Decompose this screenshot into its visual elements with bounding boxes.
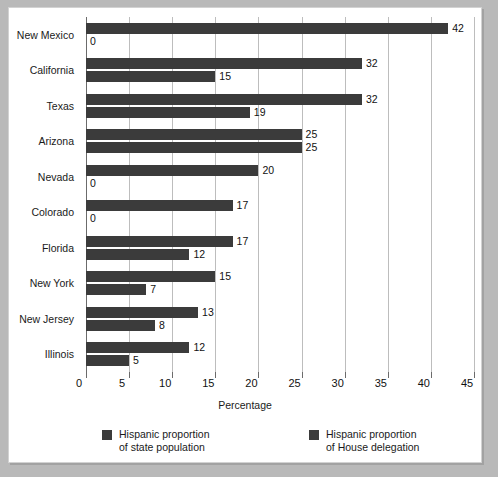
gridline-40 (431, 17, 432, 372)
x-tick-0 (86, 372, 87, 378)
x-axis: 051015202530354045 (86, 372, 474, 392)
bar-value-label: 13 (202, 307, 214, 318)
x-tick-15 (215, 372, 216, 378)
x-tick-label-5: 5 (119, 377, 125, 389)
x-tick-25 (302, 372, 303, 378)
bar-value-label: 15 (219, 71, 231, 82)
bar (86, 129, 302, 140)
plot-area: 4203215321925252001701712157138125 (86, 17, 474, 372)
y-axis-label-nevada: Nevada (38, 171, 74, 183)
gridline-10 (172, 17, 173, 372)
bar (86, 94, 362, 105)
bar-value-label: 15 (219, 271, 231, 282)
x-tick-5 (129, 372, 130, 378)
bar (86, 342, 189, 353)
bar (86, 71, 215, 82)
bar-value-label: 32 (366, 58, 378, 69)
bar-value-label: 0 (90, 213, 96, 224)
bar (86, 165, 258, 176)
legend-swatch-icon (309, 430, 319, 440)
bar (86, 307, 198, 318)
y-axis-label-texas: Texas (47, 100, 74, 112)
y-axis-label-new-mexico: New Mexico (17, 29, 74, 41)
bar-value-label: 42 (452, 23, 464, 34)
x-tick-label-15: 15 (202, 377, 214, 389)
bar (86, 107, 250, 118)
y-axis-label-arizona: Arizona (38, 135, 74, 147)
legend-item-0: Hispanic proportion of state population (102, 428, 209, 454)
gridline-20 (258, 17, 259, 372)
bar-value-label: 0 (90, 178, 96, 189)
x-tick-label-35: 35 (375, 377, 387, 389)
bar-value-label: 7 (150, 284, 156, 295)
gridline-25 (302, 17, 303, 372)
x-tick-10 (172, 372, 173, 378)
y-axis-label-florida: Florida (42, 242, 74, 254)
bar (86, 58, 362, 69)
gridline-0 (86, 17, 87, 372)
x-axis-title: Percentage (9, 399, 481, 411)
bar (86, 355, 129, 366)
bar-value-label: 25 (306, 142, 318, 153)
bar-value-label: 5 (133, 355, 139, 366)
y-axis-label-new-jersey: New Jersey (19, 313, 74, 325)
gridline-35 (388, 17, 389, 372)
y-axis-category-labels: New MexicoCaliforniaTexasArizonaNevadaCo… (9, 17, 80, 372)
chart-legend: Hispanic proportion of state populationH… (9, 428, 481, 468)
bar-value-label: 32 (366, 94, 378, 105)
y-axis-label-california: California (30, 64, 74, 76)
chart-figure: New MexicoCaliforniaTexasArizonaNevadaCo… (8, 7, 482, 463)
bar-value-label: 0 (90, 36, 96, 47)
bar (86, 200, 233, 211)
bar (86, 249, 189, 260)
bar-value-label: 17 (237, 200, 249, 211)
bar (86, 236, 233, 247)
x-tick-30 (345, 372, 346, 378)
x-tick-45 (474, 372, 475, 378)
y-axis-label-new-york: New York (30, 277, 74, 289)
legend-item-1: Hispanic proportion of House delegation (309, 428, 419, 454)
gridline-45 (474, 17, 475, 372)
bar-value-label: 12 (193, 249, 205, 260)
y-axis-label-illinois: Illinois (45, 348, 74, 360)
x-tick-label-0: 0 (76, 377, 82, 389)
x-tick-label-20: 20 (245, 377, 257, 389)
gridline-30 (345, 17, 346, 372)
legend-label: Hispanic proportion of House delegation (326, 428, 419, 454)
y-axis-label-colorado: Colorado (31, 206, 74, 218)
x-tick-label-25: 25 (288, 377, 300, 389)
x-tick-20 (258, 372, 259, 378)
bar-value-label: 17 (237, 236, 249, 247)
bar (86, 142, 302, 153)
bar (86, 320, 155, 331)
gridline-15 (215, 17, 216, 372)
x-tick-40 (431, 372, 432, 378)
legend-swatch-icon (102, 430, 112, 440)
bar (86, 284, 146, 295)
bar (86, 23, 448, 34)
bar-value-label: 19 (254, 107, 266, 118)
x-tick-label-40: 40 (418, 377, 430, 389)
bar-value-label: 20 (262, 165, 274, 176)
x-tick-label-45: 45 (461, 377, 473, 389)
bar-value-label: 25 (306, 129, 318, 140)
bar (86, 271, 215, 282)
x-tick-label-10: 10 (159, 377, 171, 389)
bar-value-label: 8 (159, 320, 165, 331)
x-tick-35 (388, 372, 389, 378)
bar-value-label: 12 (193, 342, 205, 353)
x-tick-label-30: 30 (332, 377, 344, 389)
legend-label: Hispanic proportion of state population (119, 428, 209, 454)
gridline-5 (129, 17, 130, 372)
